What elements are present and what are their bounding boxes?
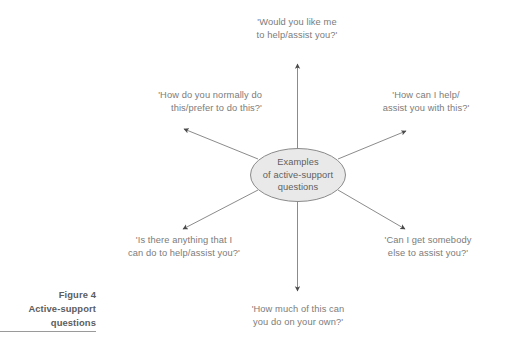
- figure-caption-rule: [0, 331, 96, 332]
- question-bottom-line-2: you do on your own?': [222, 316, 374, 329]
- figure-caption-line-2: Active-support: [0, 302, 96, 316]
- question-upper-right-line-1: 'How can I help/: [356, 89, 496, 102]
- question-label-lower-left: 'Is there anything that I can do to help…: [104, 234, 264, 261]
- question-top-line-2: to help/assist you?': [232, 29, 362, 42]
- question-lower-left-line-1: 'Is there anything that I: [104, 234, 264, 247]
- question-label-upper-right: 'How can I help/ assist you with this?': [356, 89, 496, 116]
- question-label-upper-left: 'How do you normally do this/prefer to d…: [104, 89, 262, 116]
- question-upper-left-line-2: this/prefer to do this?': [104, 102, 262, 115]
- question-label-top: 'Would you like me to help/assist you?': [232, 16, 362, 43]
- question-upper-left-line-1: 'How do you normally do: [104, 89, 262, 102]
- question-label-lower-right: 'Can I get somebody else to assist you?': [352, 234, 504, 261]
- question-lower-right-line-1: 'Can I get somebody: [352, 234, 504, 247]
- center-node-ellipse: [251, 149, 346, 202]
- question-upper-right-line-2: assist you with this?': [356, 102, 496, 115]
- question-label-bottom: 'How much of this can you do on your own…: [222, 303, 374, 330]
- question-lower-left-line-2: can do to help/assist you?': [104, 247, 264, 260]
- arrow-upper-left: [184, 129, 258, 159]
- arrow-lower-right: [338, 190, 405, 229]
- figure-caption: Figure 4 Active-support questions: [0, 288, 96, 330]
- figure-caption-line-1: Figure 4: [0, 288, 96, 302]
- arrow-upper-right: [338, 131, 406, 159]
- figure-active-support-questions: Examples of active-support questions 'Wo…: [0, 0, 513, 356]
- question-lower-right-line-2: else to assist you?': [352, 247, 504, 260]
- question-top-line-1: 'Would you like me: [232, 16, 362, 29]
- figure-caption-line-3: questions: [0, 316, 96, 330]
- question-bottom-line-1: 'How much of this can: [222, 303, 374, 316]
- arrow-lower-left: [183, 190, 258, 229]
